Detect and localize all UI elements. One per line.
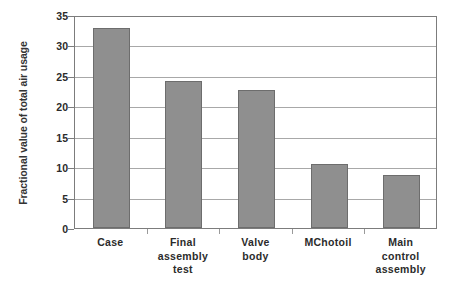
- bar: [93, 28, 130, 228]
- y-tick-mark: [68, 229, 74, 230]
- plot-area: [74, 16, 437, 229]
- x-label-line: assembly: [358, 263, 443, 277]
- x-label-line: Main: [358, 236, 443, 250]
- y-tick-label: 25: [42, 72, 68, 82]
- y-tick-label: 35: [42, 11, 68, 21]
- bar-chart-figure: Fractional value of total air usage 3530…: [0, 0, 456, 296]
- y-tick-label: 20: [42, 102, 68, 112]
- x-label-line: test: [141, 263, 226, 277]
- y-tick-label: 5: [42, 194, 68, 204]
- y-axis-title: Fractional value of total air usage: [16, 16, 30, 230]
- bar: [383, 175, 420, 228]
- bar: [165, 81, 202, 228]
- bar: [238, 90, 275, 228]
- x-tick-mark: [219, 229, 220, 234]
- y-tick-label: 15: [42, 133, 68, 143]
- x-tick-mark: [147, 229, 148, 234]
- x-tick-mark: [292, 229, 293, 234]
- x-category-label: Maincontrolassembly: [358, 236, 443, 277]
- y-tick-label: 0: [42, 224, 68, 234]
- x-label-line: control: [358, 250, 443, 264]
- x-label-line: body: [213, 250, 298, 264]
- bar: [311, 164, 348, 229]
- x-tick-mark: [364, 229, 365, 234]
- y-tick-label: 10: [42, 163, 68, 173]
- y-tick-label: 30: [42, 41, 68, 51]
